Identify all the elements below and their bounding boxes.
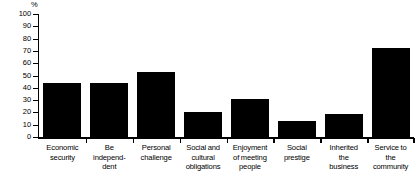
x-axis-label-line: Service to [364,143,417,153]
x-axis-label: Socialprestige [270,143,323,162]
x-axis-label-line: Be [83,143,136,153]
x-axis-label-line: security [36,153,89,163]
y-axis-tick-label: 60 [7,59,31,67]
y-axis-tick-label: 50 [7,72,31,80]
y-axis-tick-label: 10 [7,121,31,129]
x-axis-label: Enjoymentof meetingpeople [224,143,277,172]
y-axis-tick-label: 30 [7,96,31,104]
y-axis-tick-label: 70 [7,47,31,55]
y-axis-tick-label: 20 [7,108,31,116]
y-axis-tick-label: 100 [7,10,31,18]
x-axis-label-line: the [317,153,370,163]
x-axis-label-line: cultural [177,153,230,163]
bar [231,99,269,137]
y-axis-tick [33,26,38,27]
x-axis-label-line: community [364,162,417,172]
x-axis-label: Inheritedthebusiness [317,143,370,172]
y-axis-tick-label: 0 [7,133,31,141]
y-axis-tick [33,88,38,89]
x-axis-label-line: independ- [83,153,136,163]
x-axis-label: Personalchallenge [130,143,183,162]
plot-area [39,14,414,137]
x-axis-label-line: people [224,162,277,172]
x-axis-label-line: the [364,153,417,163]
y-axis-tick [33,63,38,64]
bar [137,72,175,137]
x-axis-label-line: challenge [130,153,183,163]
x-axis-label-line: of meeting [224,153,277,163]
y-axis-tick-label: 90 [7,22,31,30]
y-axis-tick [33,100,38,101]
x-axis-label-line: Inherited [317,143,370,153]
bar [184,112,222,137]
x-axis-label-line: Social and [177,143,230,153]
y-axis-tick [33,112,38,113]
bar [325,114,363,137]
y-axis-tick [33,51,38,52]
y-axis-tick [33,39,38,40]
x-axis-label-line: Economic [36,143,89,153]
x-axis-label-line: business [317,162,370,172]
bar [90,83,128,137]
x-axis-label-line: Enjoyment [224,143,277,153]
x-axis-label: Economicsecurity [36,143,89,162]
y-axis-unit-label: % [31,1,37,9]
x-axis-label: Social andculturalobligations [177,143,230,172]
x-axis-label-line: prestige [270,153,323,163]
bar [43,83,81,137]
y-axis-tick [33,125,38,126]
x-axis-label: Service tothecommunity [364,143,417,172]
x-axis-label-line: obligations [177,162,230,172]
bar-chart: % 0102030405060708090100 Economicsecurit… [0,0,417,179]
y-axis-tick [33,137,38,138]
bar [372,48,410,137]
y-axis-tick-label: 80 [7,35,31,43]
x-axis-label: Beindepend-dent [83,143,136,172]
y-axis-tick-label: 40 [7,84,31,92]
x-axis-label-line: Social [270,143,323,153]
bar [278,121,316,137]
y-axis-tick [33,76,38,77]
x-axis-label-line: dent [83,162,136,172]
y-axis-tick [33,14,38,15]
x-axis-label-line: Personal [130,143,183,153]
